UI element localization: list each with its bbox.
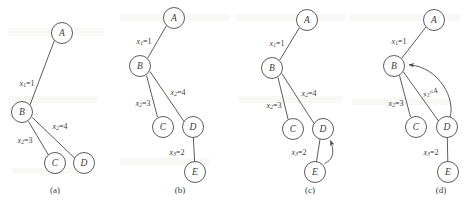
node-b-label: B <box>391 61 397 71</box>
edge-label-b-a: x1=1 <box>19 79 35 89</box>
node-b-label: B <box>19 107 25 117</box>
edge-label-b-a: x1=1 <box>269 39 285 49</box>
edge-label-d-e: x3=2 <box>423 148 439 158</box>
panel-caption-c: (c) <box>305 185 315 195</box>
node-c-label: C <box>52 158 59 168</box>
node-e-label: E <box>311 167 318 177</box>
panel-caption-b: (b) <box>175 185 186 195</box>
edge-label-b-c: x2=3 <box>266 101 282 111</box>
node-a-label: A <box>430 15 437 25</box>
edge-label-b-c: x2=3 <box>135 99 151 109</box>
panel-caption-a: (a) <box>50 185 60 195</box>
edge-label-b-d: x2=4 <box>301 89 317 99</box>
backedge-e-to-d <box>325 141 333 164</box>
node-b-label: B <box>137 61 143 71</box>
node-d-label: D <box>319 124 327 134</box>
panel-d-edge-labels: x1=1 x2=3 x2=4 x3=2 <box>388 37 439 158</box>
edge-b-c <box>147 76 158 118</box>
edge-d-e <box>447 138 448 162</box>
panel-b: A B C D E x1=1 x2=3 x2=4 x3=2 (b) <box>130 8 206 196</box>
edge-d-e <box>193 138 194 162</box>
edge-label-d-e: x3=2 <box>169 148 185 158</box>
edge-label-b-c: x2=3 <box>17 136 33 146</box>
node-a-label: A <box>303 15 310 25</box>
node-c-label: C <box>160 122 167 132</box>
edge-label-b-d: x2=4 <box>170 88 186 98</box>
node-a-label: A <box>58 28 65 38</box>
figure-canvas: A B C D x1=1 x2=3 x2=4 (a) A B <box>0 0 466 205</box>
node-c-label: C <box>290 124 297 134</box>
edge-d-e <box>317 139 321 161</box>
edge-label-b-d: x2=4 <box>52 122 68 132</box>
node-b-label: B <box>269 63 275 73</box>
edge-b-d <box>404 72 439 121</box>
node-d-label: D <box>443 122 451 132</box>
edge-b-d <box>150 72 184 122</box>
node-e-label: E <box>191 167 198 177</box>
edge-b-c <box>400 76 411 118</box>
node-e-label: E <box>444 167 451 177</box>
node-c-label: C <box>413 122 420 132</box>
edge-label-b-c: x2=3 <box>388 99 404 109</box>
node-d-label: D <box>189 122 197 132</box>
edge-label-b-a: x1=1 <box>136 37 152 47</box>
edge-label-b-d: x2=4 <box>421 86 439 100</box>
edge-label-d-e: x3=2 <box>291 148 307 158</box>
edge-label-b-a: x1=1 <box>391 37 407 47</box>
node-a-label: A <box>170 13 177 23</box>
node-d-label: D <box>80 158 88 168</box>
edge-b-a <box>30 40 55 105</box>
panel-caption-d: (d) <box>436 185 447 195</box>
panel-b-edge-labels: x1=1 x2=3 x2=4 x3=2 <box>135 37 186 158</box>
